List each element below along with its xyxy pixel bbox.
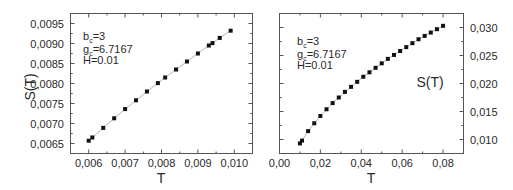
right-annotation-h: H=0.01 bbox=[297, 59, 333, 71]
data-point-marker bbox=[312, 121, 316, 125]
left-annotation-h: H=0.01 bbox=[83, 54, 119, 66]
data-point-marker bbox=[410, 41, 414, 45]
y-tick-label: 0,025 bbox=[470, 50, 498, 62]
right-panel: 0,000,020,040,060,080,0100,0150,0200,025… bbox=[269, 14, 498, 187]
x-tick-label: 0,006 bbox=[75, 157, 103, 169]
data-point-marker bbox=[404, 45, 408, 49]
y-tick-label: 0,0095 bbox=[30, 18, 64, 30]
data-point-marker bbox=[210, 41, 214, 45]
x-tick-label: 0,00 bbox=[269, 157, 290, 169]
data-point-marker bbox=[331, 101, 335, 105]
right-x-axis-label: T bbox=[367, 170, 376, 186]
data-point-marker bbox=[392, 53, 396, 57]
data-point-marker bbox=[380, 61, 384, 65]
data-point-marker bbox=[367, 70, 371, 74]
data-point-marker bbox=[300, 139, 304, 143]
x-tick-label: 0,02 bbox=[310, 157, 331, 169]
data-point-marker bbox=[156, 81, 160, 85]
data-point-marker bbox=[218, 36, 222, 40]
x-tick-label: 0,010 bbox=[221, 157, 249, 169]
data-point-marker bbox=[134, 98, 138, 102]
data-point-marker bbox=[325, 107, 329, 111]
left-panel: 0,0060,0070,0080,0090,0100,00650,00700,0… bbox=[22, 14, 253, 187]
x-tick-label: 0,06 bbox=[391, 157, 412, 169]
x-tick-label: 0,009 bbox=[184, 157, 212, 169]
data-point-marker bbox=[318, 114, 322, 118]
y-tick-label: 0,015 bbox=[470, 106, 498, 118]
data-point-marker bbox=[163, 76, 167, 80]
data-point-marker bbox=[90, 136, 94, 140]
data-point-marker bbox=[112, 116, 116, 120]
right-annotation-bc: bc=3 bbox=[297, 35, 319, 49]
data-point-marker bbox=[423, 34, 427, 38]
x-tick-label: 0,08 bbox=[432, 157, 453, 169]
data-point-marker bbox=[174, 68, 178, 72]
y-tick-label: 0,0085 bbox=[30, 58, 64, 70]
figure: 0,0060,0070,0080,0090,0100,00650,00700,0… bbox=[0, 0, 513, 190]
data-point-marker bbox=[355, 80, 359, 84]
y-tick-label: 0,0090 bbox=[30, 38, 64, 50]
data-point-marker bbox=[349, 85, 353, 89]
data-point-marker bbox=[417, 37, 421, 41]
data-point-marker bbox=[123, 107, 127, 111]
y-tick-label: 0,030 bbox=[470, 22, 498, 34]
data-point-marker bbox=[229, 29, 233, 33]
data-point-marker bbox=[101, 126, 105, 130]
data-point-marker bbox=[441, 24, 445, 28]
left-x-axis-label: T bbox=[157, 170, 166, 186]
left-annotation-bc: bc=3 bbox=[83, 30, 105, 44]
right-y-axis-label: S(T) bbox=[416, 74, 443, 90]
data-point-marker bbox=[185, 60, 189, 64]
y-tick-label: 0,010 bbox=[470, 134, 498, 146]
data-point-marker bbox=[145, 90, 149, 94]
data-point-marker bbox=[87, 139, 91, 143]
y-tick-label: 0,020 bbox=[470, 78, 498, 90]
x-tick-label: 0,008 bbox=[148, 157, 176, 169]
data-point-marker bbox=[374, 66, 378, 70]
data-point-marker bbox=[207, 44, 211, 48]
data-point-marker bbox=[386, 57, 390, 61]
y-tick-label: 0,0065 bbox=[30, 138, 64, 150]
y-tick-label: 0,0070 bbox=[30, 118, 64, 130]
data-point-marker bbox=[361, 75, 365, 79]
data-point-marker bbox=[398, 49, 402, 53]
data-point-marker bbox=[435, 27, 439, 31]
data-point-marker bbox=[196, 52, 200, 56]
x-tick-label: 0,04 bbox=[351, 157, 372, 169]
data-point-marker bbox=[306, 129, 310, 133]
x-tick-label: 0,007 bbox=[111, 157, 139, 169]
data-point-marker bbox=[343, 90, 347, 94]
data-point-marker bbox=[337, 96, 341, 100]
left-y-axis-label: S(T) bbox=[22, 73, 38, 100]
data-point-marker bbox=[429, 31, 433, 35]
